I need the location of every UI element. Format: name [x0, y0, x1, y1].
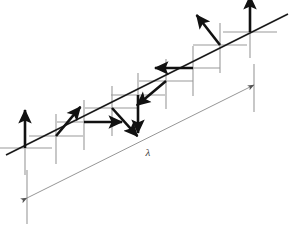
site-6-spin-arrow: [137, 81, 166, 105]
site-2-spin-arrow: [56, 107, 80, 136]
spin-wave-canvas: λ: [0, 0, 294, 225]
spin-wave-figure: λ: [0, 0, 294, 225]
crosshair-axes-group: [0, 12, 277, 175]
site-8-spin-arrow: [197, 15, 220, 45]
wavelength-label: λ: [145, 146, 151, 158]
propagation-axis-line: [6, 14, 288, 155]
